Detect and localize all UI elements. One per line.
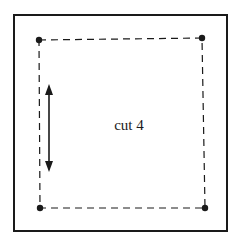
corner-dot-bottom-right xyxy=(202,205,208,211)
corner-dot-bottom-left xyxy=(37,205,43,211)
double-arrow-icon xyxy=(45,84,53,172)
cut-label: cut 4 xyxy=(114,117,144,133)
cut-diagram: cut 4 xyxy=(0,0,241,244)
corner-dot-top-right xyxy=(199,35,205,41)
corner-dot-top-left xyxy=(36,37,42,43)
